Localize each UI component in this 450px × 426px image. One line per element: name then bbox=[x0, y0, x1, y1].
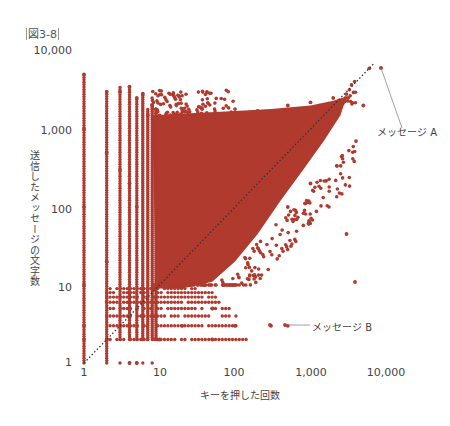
annotation-a-leader bbox=[381, 68, 402, 128]
annotation-message-b: メッセージ B bbox=[312, 319, 372, 334]
annotation-message-a: メッセージ A bbox=[377, 124, 437, 139]
scatter-plot bbox=[0, 0, 450, 426]
